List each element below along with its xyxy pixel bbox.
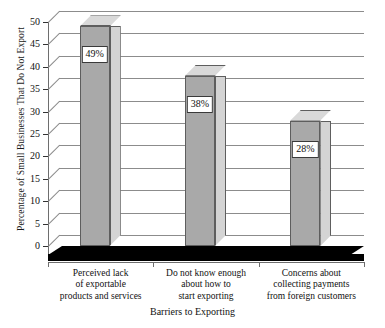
y-axis-tick-label: 5 — [16, 218, 40, 229]
category-label-line: about how to — [153, 279, 258, 290]
y-axis-tick-label: 40 — [16, 61, 40, 72]
gridline — [59, 11, 364, 12]
y-axis-tick-label: 30 — [16, 106, 40, 117]
gridline-riser — [48, 145, 60, 157]
bar-value-label: 28% — [292, 141, 318, 158]
category-tick — [48, 262, 49, 267]
y-axis-tick-label: 0 — [16, 240, 40, 251]
gridline-riser — [48, 123, 60, 135]
y-axis-tick-label: 45 — [16, 38, 40, 49]
bar-top-face — [80, 15, 121, 26]
category-label-line: products and services — [48, 291, 153, 302]
gridline-riser — [48, 190, 60, 202]
gridline-riser — [48, 33, 60, 45]
category-tick — [153, 262, 154, 267]
bar-side-face — [320, 121, 331, 246]
chart-floor — [48, 246, 364, 261]
category-label-line: Concerns about — [259, 268, 364, 279]
gridline-riser — [48, 78, 60, 90]
y-axis-tick-label: 20 — [16, 150, 40, 161]
gridline-riser — [48, 11, 60, 23]
y-axis-tick-label: 15 — [16, 173, 40, 184]
plot-area — [48, 8, 364, 253]
category-label: Do not know enoughabout how tostart expo… — [153, 268, 258, 302]
y-axis-tick-label: 25 — [16, 128, 40, 139]
y-axis-tick-label: 50 — [16, 16, 40, 27]
gridline-riser — [48, 235, 60, 247]
category-label-line: start exporting — [153, 291, 258, 302]
x-axis-title: Barriers to Exporting — [0, 306, 385, 317]
bar-top-face — [185, 65, 226, 76]
category-tick — [364, 262, 365, 267]
category-label-line: Do not know enough — [153, 268, 258, 279]
category-axis-line — [48, 262, 364, 263]
gridline-riser — [48, 101, 60, 113]
bar-chart: Percentage of Small Businesses That Do N… — [0, 0, 385, 328]
bar-value-label: 49% — [81, 46, 107, 63]
category-label-line: from foreign customers — [259, 291, 364, 302]
category-label-line: Perceived lack — [48, 268, 153, 279]
bar-side-face — [110, 26, 121, 246]
bar-side-face — [215, 76, 226, 246]
bar-front-face — [290, 121, 320, 246]
bar-top-face — [290, 110, 331, 121]
category-tick — [259, 262, 260, 267]
category-label-line: collecting payments — [259, 279, 364, 290]
category-label: Perceived lackof exportableproducts and … — [48, 268, 153, 302]
gridline-riser — [48, 213, 60, 225]
y-axis-tick-label: 10 — [16, 195, 40, 206]
floor-front-face — [48, 254, 364, 261]
category-label-line: of exportable — [48, 279, 153, 290]
bar-value-label: 38% — [187, 96, 213, 113]
gridline-riser — [48, 56, 60, 68]
category-label: Concerns aboutcollecting paymentsfrom fo… — [259, 268, 364, 302]
bar — [290, 121, 320, 246]
y-axis-tick-label: 35 — [16, 83, 40, 94]
gridline-riser — [48, 168, 60, 180]
